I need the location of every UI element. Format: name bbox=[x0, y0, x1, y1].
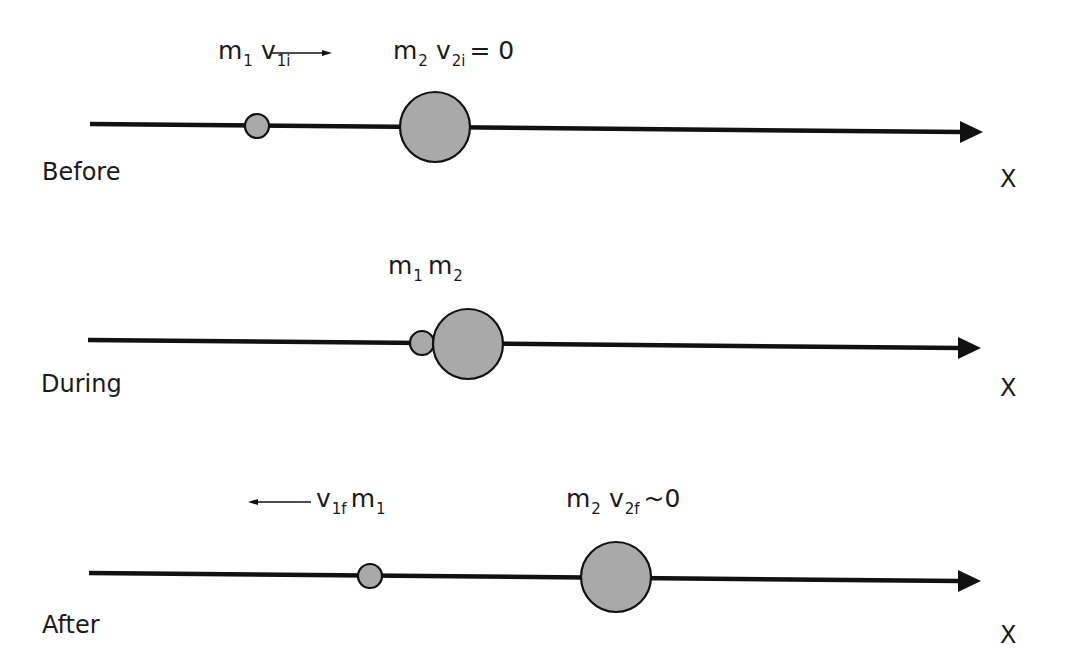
axis-arrowhead-icon bbox=[958, 337, 981, 359]
axis-x-label-before: X bbox=[1000, 167, 1016, 191]
stage-label-before: Before bbox=[42, 160, 120, 184]
axis-after bbox=[89, 570, 981, 592]
ball-m1-after bbox=[358, 564, 382, 588]
axis-x-label-during: X bbox=[1000, 376, 1016, 400]
ball-m1-before bbox=[245, 114, 269, 138]
ball-m1-during bbox=[410, 331, 434, 355]
label-m1-v1i: m1v1i bbox=[218, 38, 290, 69]
stage-label-during: During bbox=[41, 372, 122, 396]
label-m1-m2: m1m2 bbox=[388, 253, 463, 284]
ball-m2-after bbox=[581, 542, 651, 612]
stage-label-after: After bbox=[42, 613, 100, 637]
label-v1f-m1: v1fm1 bbox=[316, 486, 386, 517]
label-m2-v2i: m2v2i= 0 bbox=[393, 38, 514, 69]
axis-during bbox=[88, 337, 981, 359]
axis-x-label-after: X bbox=[1000, 623, 1016, 647]
axis-arrowhead-icon bbox=[958, 570, 981, 592]
axis-arrowhead-icon bbox=[960, 121, 983, 143]
label-m2-v2f: m2v2f~0 bbox=[566, 486, 680, 517]
ball-m2-during bbox=[433, 309, 503, 379]
axis-before bbox=[90, 121, 983, 143]
ball-m2-before bbox=[400, 92, 470, 162]
collision-diagram bbox=[0, 0, 1071, 667]
velocity-arrow-left-icon bbox=[248, 499, 311, 505]
